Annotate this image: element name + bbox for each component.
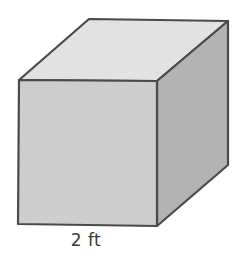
- cube-drawing: [0, 0, 239, 264]
- edge-length-label: 2 ft: [46, 230, 126, 250]
- cube-figure: 2 ft: [0, 0, 239, 264]
- cube-front-face: [18, 80, 157, 226]
